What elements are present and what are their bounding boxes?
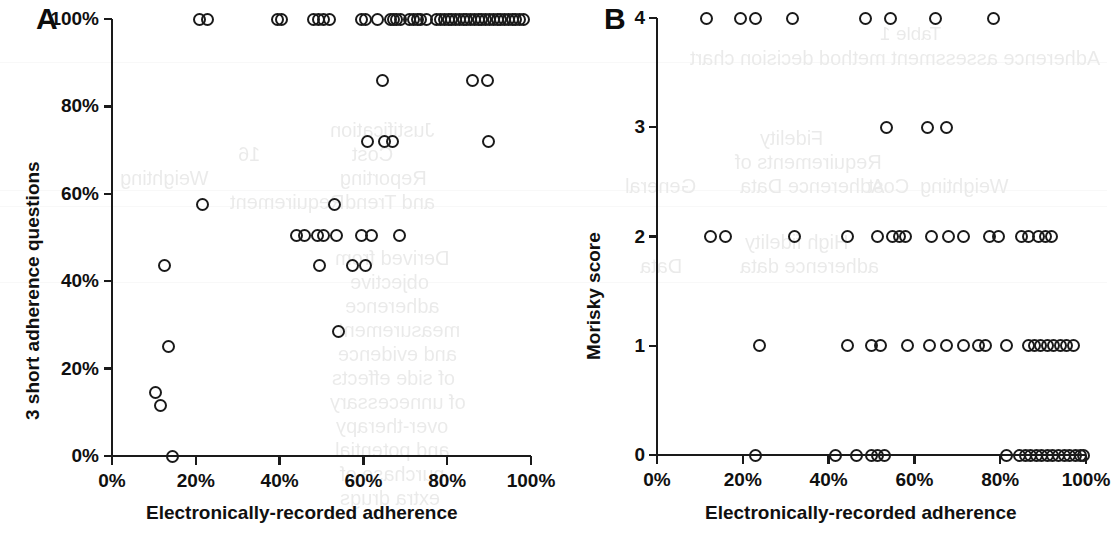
x-tick-label: 0% (612, 469, 702, 491)
scatter-point (517, 13, 530, 26)
panel-a-x-axis-title: Electronically-recorded adherence (146, 502, 458, 524)
scatter-point (925, 230, 938, 243)
scatter-point (940, 121, 953, 134)
scatter-point (700, 12, 713, 25)
x-tick-label: 20% (698, 469, 788, 491)
scatter-point (921, 121, 934, 134)
scatter-point (859, 12, 872, 25)
scatter-point (1077, 449, 1090, 462)
scatter-point (786, 12, 799, 25)
y-tick-label: 4 (555, 7, 645, 29)
scatter-point (330, 229, 343, 242)
scatter-point (987, 12, 1000, 25)
x-tick-label: 80% (402, 470, 492, 492)
scatter-point (992, 230, 1005, 243)
x-tick-label: 60% (869, 469, 959, 491)
y-tick-label: 60% (9, 183, 99, 205)
panel-a: A 3 short adherence questions Electronic… (0, 0, 553, 539)
scatter-point (317, 229, 330, 242)
y-tick-label: 80% (9, 95, 99, 117)
panel-b-x-axis-title: Electronically-recorded adherence (705, 502, 1017, 524)
x-tick-label: 20% (151, 470, 241, 492)
scatter-point (201, 13, 214, 26)
y-tick-label: 0 (555, 444, 645, 466)
scatter-point (323, 13, 336, 26)
scatter-point (466, 74, 479, 87)
y-tick-label: 3 (555, 116, 645, 138)
scatter-point (749, 12, 762, 25)
y-tick-label: 20% (9, 358, 99, 380)
y-tick-label: 1 (555, 335, 645, 357)
scatter-point (1000, 449, 1013, 462)
scatter-point (298, 229, 311, 242)
scatter-point (481, 74, 494, 87)
scatter-point (788, 230, 801, 243)
scatter-point (884, 12, 897, 25)
scatter-point (376, 74, 389, 87)
scatter-point (749, 449, 762, 462)
panel-b: B Morisky score Electronically-recorded … (553, 0, 1107, 539)
scatter-point (878, 449, 891, 462)
y-tick-label: 40% (9, 270, 99, 292)
scatter-point (328, 198, 341, 211)
scatter-point (361, 135, 374, 148)
x-tick-label: 80% (955, 469, 1045, 491)
scatter-point (332, 325, 345, 338)
scatter-point (275, 13, 288, 26)
x-tick-label: 40% (784, 469, 874, 491)
x-tick-label: 100% (1041, 469, 1115, 491)
scatter-point (734, 12, 747, 25)
scatter-point (880, 121, 893, 134)
scatter-point (979, 339, 992, 352)
scatter-point (1067, 339, 1080, 352)
scatter-point (482, 135, 495, 148)
x-tick-label: 0% (67, 470, 157, 492)
x-tick-label: 60% (318, 470, 408, 492)
scatter-point (365, 229, 378, 242)
scatter-point (929, 12, 942, 25)
scatter-point (149, 386, 162, 399)
scatter-point (386, 135, 399, 148)
y-tick-label: 2 (555, 226, 645, 248)
scatter-point (874, 339, 887, 352)
scatter-point (371, 13, 384, 26)
scatter-point (829, 449, 842, 462)
scatter-point (166, 450, 179, 463)
scatter-point (196, 198, 209, 211)
y-tick-label: 100% (9, 8, 99, 30)
scatter-point (850, 449, 863, 462)
y-tick-label: 0% (9, 445, 99, 467)
x-tick-label: 40% (235, 470, 325, 492)
scatter-point (154, 399, 167, 412)
scatter-point (393, 229, 406, 242)
